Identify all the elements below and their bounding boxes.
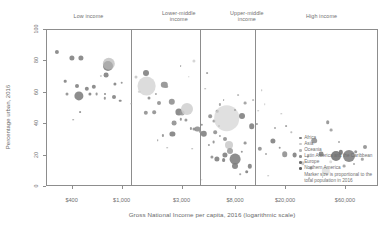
x-tick-label: $8,000	[226, 197, 243, 203]
bubble-point	[264, 104, 266, 106]
bubble-point	[281, 113, 282, 114]
bubble-point	[179, 118, 181, 120]
bubble-point	[244, 101, 247, 104]
plot-area: AfricaAsiaOceaniaLatin America and the C…	[46, 29, 378, 186]
bubble-point	[208, 144, 210, 146]
y-tick-label: 100	[33, 22, 39, 36]
bubble-point	[234, 109, 236, 111]
bubble-point	[270, 138, 275, 143]
x-tick-label: $1,000	[113, 197, 130, 203]
bubble-point	[137, 76, 156, 95]
x-tick-mark	[182, 186, 183, 189]
bubble-point	[274, 127, 276, 129]
y-tick-mark	[43, 155, 46, 156]
bubble-point	[201, 123, 203, 125]
bubble-point	[74, 91, 83, 100]
y-tick-mark	[43, 60, 46, 61]
bubble-point	[66, 92, 69, 95]
legend-item-label: Northern America	[304, 165, 340, 171]
band-label-line-1: Low income	[53, 13, 123, 19]
bubble-point	[112, 95, 116, 99]
bubble-point	[285, 125, 287, 127]
band-label-4: High income	[287, 13, 357, 19]
bubble-point	[184, 118, 187, 121]
y-tick-mark	[43, 29, 46, 30]
bubble-point	[214, 156, 219, 161]
bubble-point	[148, 97, 151, 100]
band-label-line-2: income	[212, 16, 282, 22]
bubble-point	[292, 152, 297, 157]
bubble-point	[223, 137, 227, 141]
bubble-point	[219, 135, 221, 137]
bubble-point	[265, 153, 267, 155]
y-axis-title: Percentage urban, 2016	[5, 57, 11, 177]
legend-swatch-icon	[299, 143, 302, 146]
bubble-point	[329, 129, 332, 132]
bubble-point	[103, 58, 115, 70]
bubble-point	[223, 99, 225, 101]
bubble-point	[170, 131, 175, 136]
bubble-point	[119, 99, 122, 102]
bubble-point	[192, 59, 195, 62]
bubble-point	[78, 55, 83, 60]
bubble-point	[248, 164, 252, 168]
bubble-point	[239, 113, 245, 119]
bubble-point	[257, 110, 259, 112]
bubble-point	[223, 152, 228, 157]
bubble-point	[73, 119, 75, 121]
y-tick-label: 40	[33, 116, 39, 130]
bubble-point	[209, 114, 213, 118]
bubble-point	[210, 156, 213, 159]
bubble-point	[258, 146, 262, 150]
bubble-point	[201, 179, 202, 180]
bubble-point	[267, 175, 269, 177]
bubble-point	[180, 66, 182, 68]
band-divider-2	[200, 30, 201, 185]
bubble-point	[104, 93, 106, 95]
legend: AfricaAsiaOceaniaLatin America and the C…	[299, 135, 372, 184]
bubble-point	[164, 85, 168, 89]
bubble-point	[88, 92, 91, 95]
bubble-point	[191, 148, 193, 150]
x-tick-label: $20,000	[275, 197, 295, 203]
bubble-point	[155, 92, 157, 94]
bubble-point	[79, 111, 81, 113]
band-divider-1	[131, 30, 132, 185]
bubble-point	[55, 50, 59, 54]
x-tick-label: $60,000	[335, 197, 355, 203]
bubble-point	[255, 123, 257, 125]
y-tick-mark	[43, 186, 46, 187]
y-tick-label: 60	[33, 85, 39, 99]
bubble-point	[75, 84, 79, 88]
y-tick-mark	[43, 92, 46, 93]
bubble-point	[206, 72, 208, 74]
bubble-point	[249, 123, 255, 129]
x-tick-label: $400	[65, 197, 77, 203]
y-tick-label: 80	[33, 53, 39, 67]
bubble-point	[214, 131, 218, 135]
bubble-point	[135, 75, 138, 78]
band-divider-3	[255, 30, 256, 185]
bubble-point	[157, 139, 159, 141]
bubble-point	[240, 150, 242, 152]
bubble-point	[167, 147, 169, 149]
y-tick-mark	[43, 123, 46, 124]
x-tick-mark	[72, 186, 73, 189]
legend-swatch-icon	[299, 155, 302, 158]
bubble-point	[205, 88, 207, 90]
band-label-1: Low income	[53, 13, 123, 19]
bubble-point	[120, 81, 123, 84]
bubble-point	[261, 90, 263, 92]
bubble-point	[252, 99, 254, 101]
legend-swatch-icon	[299, 149, 302, 152]
band-label-3: Upper-middleincome	[212, 10, 282, 23]
x-tick-mark	[345, 186, 346, 189]
bubble-point	[161, 134, 163, 136]
bubble-point	[113, 83, 116, 86]
legend-swatch-icon	[299, 137, 302, 140]
bubble-point	[84, 87, 88, 91]
bubble-point	[92, 84, 96, 88]
bubble-point	[244, 142, 247, 145]
bubble-point	[95, 93, 98, 96]
bubble-point	[326, 120, 330, 124]
